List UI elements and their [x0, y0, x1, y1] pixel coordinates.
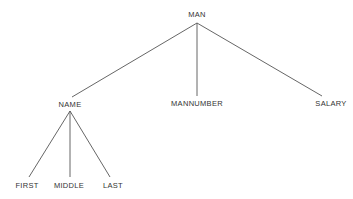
- node-salary: SALARY: [315, 99, 346, 108]
- edge-name-last: [70, 111, 110, 177]
- node-middle: MIDDLE: [54, 181, 84, 190]
- node-last: LAST: [103, 181, 123, 190]
- node-man: MAN: [188, 10, 206, 19]
- edge-man-name: [72, 23, 197, 97]
- node-first: FIRST: [15, 181, 38, 190]
- edge-man-salary: [197, 23, 322, 96]
- node-name: NAME: [59, 100, 82, 109]
- tree-diagram: MAN NAME MANNUMBER SALARY FIRST MIDDLE L…: [0, 0, 353, 199]
- edge-name-first: [29, 111, 70, 177]
- node-mannumber: MANNUMBER: [171, 99, 223, 108]
